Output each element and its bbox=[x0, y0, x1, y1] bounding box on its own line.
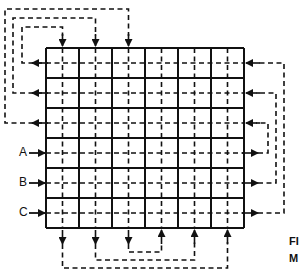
row-label-c: C bbox=[19, 205, 28, 219]
grid bbox=[46, 48, 244, 228]
top-loop bbox=[22, 27, 63, 63]
caption-line-2: M bbox=[289, 252, 298, 264]
right-loop bbox=[256, 93, 276, 183]
right-loop bbox=[256, 63, 284, 213]
bottom-loop bbox=[129, 242, 162, 252]
caption-line-1: FI bbox=[289, 235, 299, 247]
bottom-loop bbox=[96, 242, 195, 260]
mesh-diagram bbox=[0, 0, 305, 274]
bottom-loop bbox=[63, 242, 228, 268]
top-loop bbox=[5, 9, 129, 123]
row-label-b: B bbox=[19, 175, 27, 189]
top-loop bbox=[13, 18, 96, 93]
right-loop bbox=[256, 123, 268, 153]
row-label-a: A bbox=[19, 145, 27, 159]
